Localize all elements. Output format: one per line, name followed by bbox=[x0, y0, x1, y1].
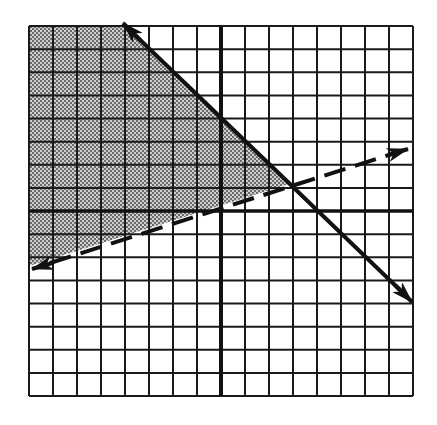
inequality-graph bbox=[0, 0, 437, 425]
dashed-arrow-right bbox=[388, 149, 408, 155]
solid-arrow-bottom bbox=[395, 285, 412, 302]
